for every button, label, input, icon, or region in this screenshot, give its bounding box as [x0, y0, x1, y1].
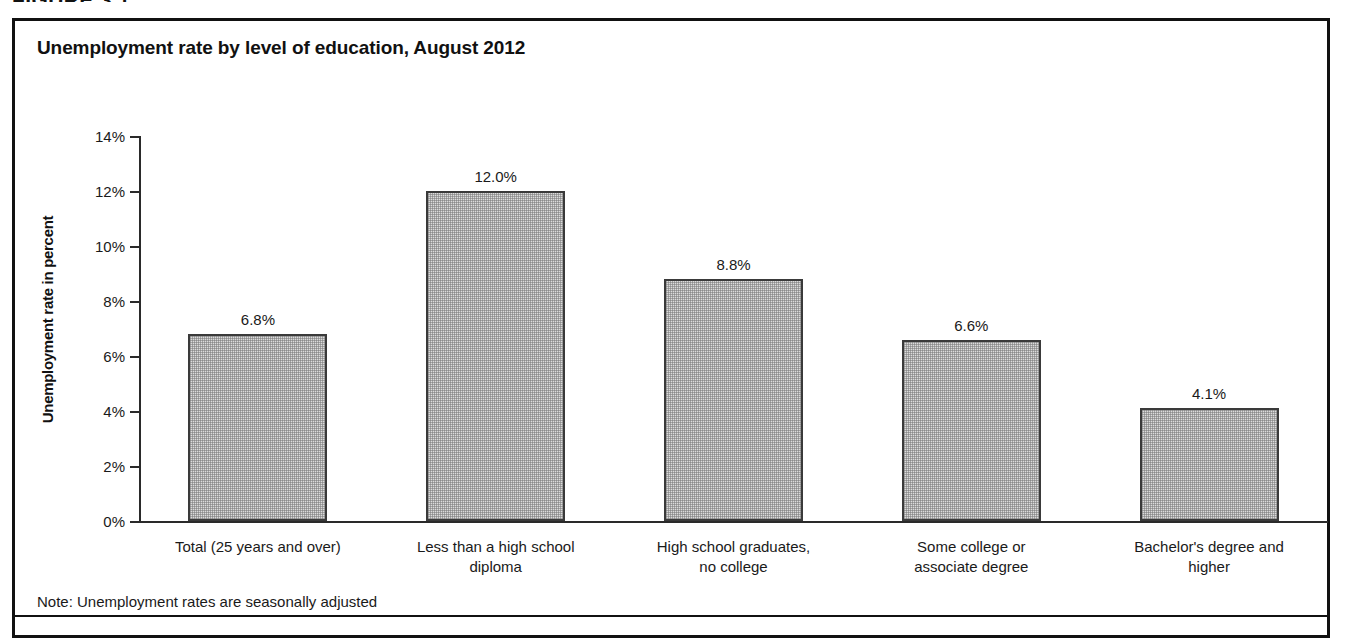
y-tick-label: 6%: [103, 348, 125, 365]
x-axis-category-line: Less than a high school: [371, 537, 621, 557]
y-tick-mark: [130, 521, 139, 523]
bar-group[interactable]: 8.8%High school graduates,no college: [664, 136, 803, 521]
x-axis-category-line: Total (25 years and over): [133, 537, 383, 557]
y-axis-line: [139, 136, 141, 521]
y-tick-mark: [130, 246, 139, 248]
chart-title: Unemployment rate by level of education,…: [37, 37, 525, 59]
x-axis-category-line: no college: [609, 557, 859, 577]
y-tick-label: 2%: [103, 458, 125, 475]
x-axis-category-line: Some college or: [846, 537, 1096, 557]
y-tick-label: 14%: [95, 128, 125, 145]
bar[interactable]: [902, 340, 1041, 522]
y-tick-mark: [130, 301, 139, 303]
x-axis-category-line: High school graduates,: [609, 537, 859, 557]
bar-value-label: 6.8%: [241, 311, 275, 328]
bar[interactable]: [426, 191, 565, 521]
y-axis-title: Unemployment rate in percent: [37, 189, 59, 449]
note-divider: [15, 615, 1327, 617]
x-axis-category-label: Total (25 years and over): [133, 537, 383, 557]
x-axis-category-label: Less than a high schooldiploma: [371, 537, 621, 577]
figure-frame: Unemployment rate by level of education,…: [12, 18, 1330, 638]
y-tick-label: 8%: [103, 293, 125, 310]
figure-caption: FIGURE 3.1: [12, 0, 130, 2]
y-tick-mark: [130, 136, 139, 138]
bar-value-label: 4.1%: [1192, 385, 1226, 402]
x-axis-category-label: Some college orassociate degree: [846, 537, 1096, 577]
x-axis-category-line: Bachelor's degree and: [1084, 537, 1334, 557]
x-axis-category-line: diploma: [371, 557, 621, 577]
bar-group[interactable]: 6.8%Total (25 years and over): [188, 136, 327, 521]
y-axis-title-label: Unemployment rate in percent: [40, 215, 57, 422]
bar-value-label: 6.6%: [954, 317, 988, 334]
y-tick-mark: [130, 411, 139, 413]
plot-area: 0%2%4%6%8%10%12%14% 6.8%Total (25 years …: [139, 136, 1328, 521]
bar-value-label: 8.8%: [716, 256, 750, 273]
bar-group[interactable]: 6.6%Some college orassociate degree: [902, 136, 1041, 521]
bar[interactable]: [664, 279, 803, 521]
y-tick-mark: [130, 356, 139, 358]
x-axis-category-line: higher: [1084, 557, 1334, 577]
y-tick-mark: [130, 191, 139, 193]
bar[interactable]: [1140, 408, 1279, 521]
figure-note: Note: Unemployment rates are seasonally …: [37, 593, 377, 610]
x-axis-category-label: Bachelor's degree andhigher: [1084, 537, 1334, 577]
x-axis-category-label: High school graduates,no college: [609, 537, 859, 577]
bar-value-label: 12.0%: [474, 168, 517, 185]
y-tick-label: 0%: [103, 513, 125, 530]
y-tick-label: 12%: [95, 183, 125, 200]
bar-group[interactable]: 4.1%Bachelor's degree andhigher: [1140, 136, 1279, 521]
x-axis-line: [139, 521, 1328, 523]
x-axis-category-line: associate degree: [846, 557, 1096, 577]
bar-group[interactable]: 12.0%Less than a high schooldiploma: [426, 136, 565, 521]
bar[interactable]: [188, 334, 327, 521]
y-tick-mark: [130, 466, 139, 468]
y-tick-label: 10%: [95, 238, 125, 255]
y-tick-label: 4%: [103, 403, 125, 420]
